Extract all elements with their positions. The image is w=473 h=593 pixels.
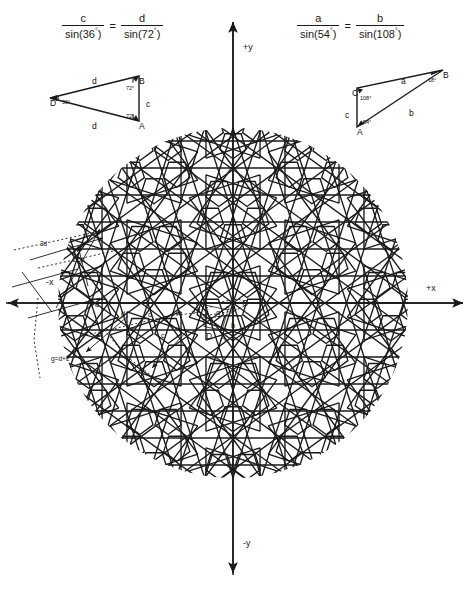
fraction-left-2: d sin(72°) <box>121 12 163 40</box>
triangle-left-vertex-label: B <box>139 76 145 86</box>
lbl-c-2: c <box>161 331 165 340</box>
lbl-D-1: D <box>206 331 212 341</box>
triangle-left-side-label: d <box>92 121 97 131</box>
lbl-d-2: d <box>121 309 125 318</box>
denominator-sin108: sin(108°) <box>356 26 405 40</box>
triangle-left-vertex-label: A <box>139 121 145 131</box>
triangle-right-side-label: c <box>345 110 349 120</box>
lbl-c-3: c <box>203 320 207 329</box>
law-of-sines-formula-left: c sin(36°) = d sin(72°) <box>62 12 163 40</box>
numerator-d: d <box>132 12 152 25</box>
fraction-right-2: b sin(108°) <box>356 12 405 40</box>
fraction-left-1: c sin(36°) <box>62 12 104 40</box>
triangle-left-angle-label: 72° <box>126 113 134 119</box>
triangle-left-side-label: d <box>92 76 97 86</box>
lbl-b-1: b <box>231 321 235 330</box>
axis-label-minus-x: -x <box>46 277 54 287</box>
triangle-right-angle-label: 108° <box>360 95 371 101</box>
denominator-sin72: sin(72°) <box>121 26 163 40</box>
lbl-d-1: d <box>95 300 99 309</box>
denominator-sin36: sin(36°) <box>62 26 104 40</box>
lbl-g-1: g <box>203 311 207 320</box>
triangle-left-vertex-label: D <box>50 98 56 108</box>
denominator-sin54: sin(54°) <box>297 26 339 40</box>
dimension-annotations <box>0 0 473 593</box>
dim-1_5d: 1.5d <box>72 256 85 263</box>
numerator-c: c <box>73 12 93 25</box>
triangle-right-side-label: b <box>409 108 414 118</box>
triangle-right-angle-label: 54° <box>363 119 371 125</box>
law-of-sines-formula-right: a sin(54°) = b sin(108°) <box>297 12 404 40</box>
axis-label-plus-y: +y <box>243 42 253 52</box>
lbl-a-1: a <box>226 304 230 311</box>
equals-sign-right: = <box>344 20 350 33</box>
axis-label-minus-y: -y <box>243 538 251 548</box>
triangle-left-angle-label: 72° <box>126 85 134 91</box>
lbl-A-1: A <box>220 333 226 343</box>
numerator-b: b <box>370 12 390 25</box>
dim-g-equals: g=d+c <box>51 355 69 362</box>
lbl-d-4: d <box>176 308 180 317</box>
fraction-right-1: a sin(54°) <box>297 12 339 40</box>
triangle-right-vertex-label: C <box>352 88 358 98</box>
lbl-d-3: d <box>148 310 152 319</box>
lbl-d-5: d <box>194 306 198 315</box>
equals-sign-left: = <box>109 20 115 33</box>
triangle-right-side-label: a <box>401 76 406 86</box>
triangle-left-angle-label: 36° <box>62 99 70 105</box>
lbl-C-1: C <box>242 298 248 308</box>
triangle-left-side-label: c <box>146 99 150 109</box>
lbl-g-2: g <box>216 308 220 317</box>
triangle-right-vertex-label: B <box>443 70 449 80</box>
triangle-right-vertex-label: A <box>357 127 363 137</box>
lbl-c-1: c <box>131 325 135 334</box>
triangle-right-angle-label: 18° <box>428 77 436 83</box>
dim-3d: 3d <box>40 240 47 247</box>
axis-label-plus-x: +x <box>426 283 436 293</box>
numerator-a: a <box>308 12 328 25</box>
diagram-canvas: c sin(36°) = d sin(72°) a sin(54°) = b s… <box>0 0 473 593</box>
